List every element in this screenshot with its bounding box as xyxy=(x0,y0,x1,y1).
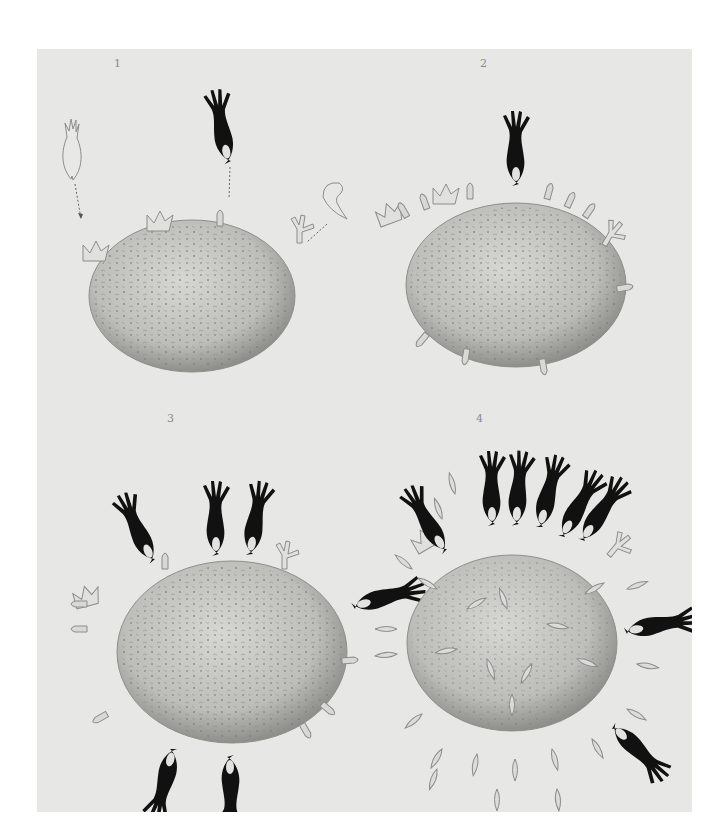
panel-label-4: 4 xyxy=(476,412,483,425)
panel-1-cell xyxy=(63,87,347,372)
panel-3-cell xyxy=(71,479,428,812)
panel-label-2: 2 xyxy=(480,57,487,70)
panel-label-1: 1 xyxy=(114,57,121,70)
panel-2-cell xyxy=(374,111,633,375)
panel-4-cell xyxy=(375,450,692,811)
cell-diagram-svg xyxy=(37,49,692,812)
illustration-plate: 1 2 3 4 xyxy=(37,49,692,812)
panel-label-3: 3 xyxy=(167,412,174,425)
